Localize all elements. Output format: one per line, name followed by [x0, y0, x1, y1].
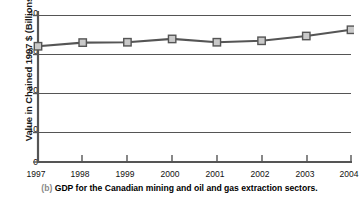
- plot-area: [24, 6, 354, 168]
- data-markers: [34, 26, 354, 50]
- x-tick-label-2003: 2003: [288, 170, 322, 179]
- x-tick-label-1999: 1999: [108, 170, 142, 179]
- data-point-1998: [79, 39, 86, 46]
- figure-caption: (b) GDP for the Canadian mining and oil …: [0, 183, 359, 193]
- data-point-2003: [303, 32, 310, 39]
- data-point-1997: [34, 43, 41, 50]
- data-point-2004: [347, 26, 354, 33]
- figure-container: Value in Chained 1997 $ (Billions) 40 30…: [0, 0, 359, 200]
- x-tick-label-1998: 1998: [63, 170, 97, 179]
- data-point-2001: [213, 39, 220, 46]
- line-chart-svg: [24, 6, 354, 168]
- data-point-2002: [258, 37, 265, 44]
- data-point-2000: [168, 35, 175, 42]
- x-tick-label-1997: 1997: [19, 170, 53, 179]
- x-tick-label-2000: 2000: [153, 170, 187, 179]
- x-tick-label-2001: 2001: [198, 170, 232, 179]
- caption-index: (b): [41, 183, 52, 193]
- x-tick-label-2002: 2002: [243, 170, 277, 179]
- x-tick-label-2004: 2004: [332, 170, 359, 179]
- data-point-1999: [124, 39, 131, 46]
- x-axis-tick-labels: 1997 1998 1999 2000 2001 2002 2003 2004: [24, 170, 354, 184]
- caption-text: GDP for the Canadian mining and oil and …: [55, 183, 318, 193]
